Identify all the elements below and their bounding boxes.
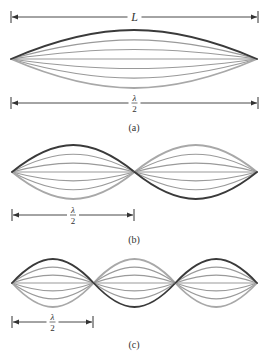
- fraction-denominator: 2: [132, 104, 137, 114]
- fraction-denominator: 2: [71, 216, 76, 226]
- string-curve-light: [175, 275, 257, 283]
- string-curve-light: [94, 283, 176, 291]
- arrowhead-icon: [251, 101, 257, 106]
- dimension-line-a-0: L: [11, 10, 258, 24]
- wavelength-symbol: λ: [70, 205, 75, 215]
- dimension-line-a-1: λ2: [11, 93, 258, 114]
- string-curve-light: [12, 275, 94, 283]
- arrowhead-icon: [86, 320, 92, 325]
- wavelength-symbol: λ: [50, 312, 55, 322]
- panels: Lλ2(a)λ2(b)λ2(c): [11, 10, 258, 351]
- string-curve-light: [12, 283, 94, 291]
- arrowhead-icon: [127, 213, 133, 218]
- string-curve-light: [175, 283, 257, 291]
- wavelength-symbol: λ: [132, 93, 137, 103]
- arrowhead-icon: [251, 15, 257, 20]
- string-curve-light: [11, 49, 257, 59]
- panel-b: λ2(b): [12, 145, 257, 246]
- arrowhead-icon: [13, 320, 19, 325]
- string-curves-b: [12, 145, 257, 199]
- dimension-line-b-0: λ2: [12, 205, 134, 226]
- panel-c: λ2(c): [12, 259, 257, 351]
- arrowhead-icon: [12, 101, 18, 106]
- arrowhead-icon: [12, 15, 18, 20]
- caption-b-label: (b): [128, 234, 140, 246]
- fraction-denominator: 2: [50, 323, 55, 333]
- string-curve-light: [12, 172, 135, 181]
- string-curve-light: [94, 275, 176, 283]
- string-curve-light: [135, 172, 258, 181]
- string-curves-c: [12, 259, 257, 307]
- string-curve-light: [11, 59, 257, 69]
- dimension-line-c-0: λ2: [12, 312, 93, 333]
- standing-wave-diagram: Lλ2(a)λ2(b)λ2(c): [0, 0, 268, 356]
- caption-a-label: (a): [128, 122, 139, 134]
- length-label: L: [130, 10, 138, 24]
- caption-c-label: (c): [128, 339, 139, 351]
- string-curve-light: [12, 163, 135, 172]
- string-curves-a: [11, 30, 257, 88]
- string-curve-light: [135, 163, 258, 172]
- panel-a: Lλ2(a): [11, 10, 258, 134]
- arrowhead-icon: [13, 213, 19, 218]
